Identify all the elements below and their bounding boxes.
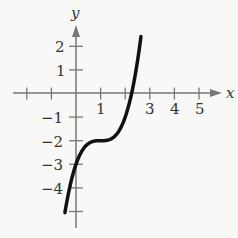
y-tick-label-m2: −2 [41, 133, 63, 151]
x-tick-label-5: 5 [195, 100, 205, 118]
x-tick-label-3: 3 [145, 100, 155, 118]
y-tick-label-1: 1 [56, 62, 66, 80]
y-tick-label-m4: −4 [41, 180, 63, 198]
y-tick-label-2: 2 [55, 38, 65, 56]
y-tick-label-m1: −1 [41, 109, 63, 127]
cubic-function-graph: x y 1 3 4 5 2 1 −1 −2 −3 −4 [0, 0, 238, 238]
x-tick-label-1: 1 [96, 100, 106, 118]
x-axis-label: x [226, 84, 235, 102]
x-tick-label-4: 4 [170, 100, 180, 118]
y-axis-label: y [70, 4, 80, 22]
y-axis-arrow-icon [72, 25, 80, 37]
x-axis-arrow-icon [210, 89, 222, 97]
y-tick-label-m3: −3 [41, 156, 63, 174]
graph-canvas: x y 1 3 4 5 2 1 −1 −2 −3 −4 [0, 0, 238, 238]
